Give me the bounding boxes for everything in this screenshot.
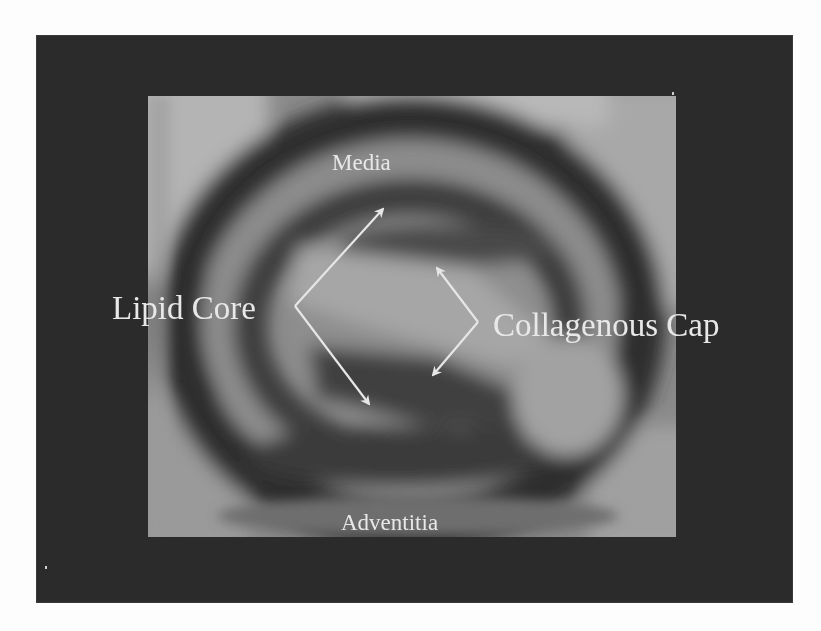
dust-speck — [45, 566, 47, 569]
collagenous-cap-label: Collagenous Cap — [493, 309, 719, 342]
slide-page: Media Lipid Core Collagenous Cap Adventi… — [0, 0, 821, 631]
lipid-core-label: Lipid Core — [112, 292, 256, 325]
adventitia-label: Adventitia — [341, 511, 438, 534]
dust-speck — [672, 92, 674, 95]
media-label: Media — [332, 151, 391, 174]
